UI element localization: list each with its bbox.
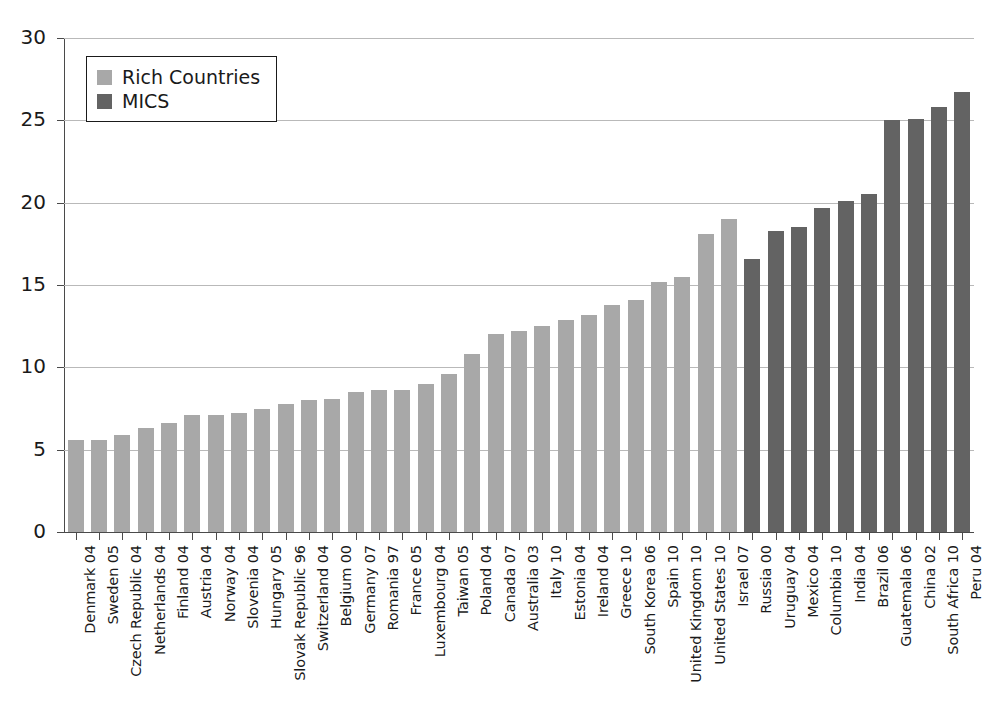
x-axis-label-norway-04: Norway 04: [222, 545, 238, 725]
x-axis-label-taiwan-05: Taiwan 05: [455, 545, 471, 725]
bar-denmark-04: [68, 440, 84, 532]
x-tick-36: [916, 533, 917, 540]
x-tick-35: [892, 533, 893, 540]
x-tick-37: [939, 533, 940, 540]
x-tick-13: [379, 533, 380, 540]
y-axis-label-30: 30: [0, 27, 46, 47]
x-axis-label-peru-04: Peru 04: [968, 545, 984, 725]
bar-guatemala-06: [884, 120, 900, 532]
bar-norway-04: [208, 415, 224, 532]
x-tick-27: [706, 533, 707, 540]
bar-switzerland-04: [301, 400, 317, 532]
bar-south-africa-10: [931, 107, 947, 532]
x-axis-label-poland-04: Poland 04: [478, 545, 494, 725]
gridline-30: [64, 38, 974, 39]
x-tick-4: [169, 533, 170, 540]
bar-south-korea-06: [628, 300, 644, 532]
x-tick-3: [146, 533, 147, 540]
x-axis-label-slovenia-04: Slovenia 04: [245, 545, 261, 725]
x-tick-17: [472, 533, 473, 540]
x-axis-label-south-korea-06: South Korea 06: [642, 545, 658, 725]
x-axis-label-canada-07: Canada 07: [502, 545, 518, 725]
x-axis-label-czech-republic-04: Czech Republic 04: [128, 545, 144, 725]
y-axis-label-0: 0: [0, 521, 46, 541]
y-axis-label-20: 20: [0, 192, 46, 212]
x-axis-label-luxembourg-04: Luxembourg 04: [432, 545, 448, 725]
bar-luxembourg-04: [418, 384, 434, 532]
bar-sweden-05: [91, 440, 107, 532]
x-tick-8: [262, 533, 263, 540]
x-axis-label-china-02: China 02: [922, 545, 938, 725]
x-tick-6: [216, 533, 217, 540]
x-tick-15: [426, 533, 427, 540]
legend-swatch-rich-countries: [97, 70, 112, 85]
bar-mexico-04: [791, 227, 807, 532]
x-tick-16: [449, 533, 450, 540]
x-tick-19: [519, 533, 520, 540]
x-tick-2: [122, 533, 123, 540]
x-axis-label-mexico-04: Mexico 04: [805, 545, 821, 725]
bar-austria-04: [184, 415, 200, 532]
bar-ireland-04: [581, 315, 597, 532]
x-axis-label-italy-10: Italy 10: [548, 545, 564, 725]
x-axis-label-germany-07: Germany 07: [362, 545, 378, 725]
bar-brazil-06: [861, 194, 877, 532]
bar-france-05: [394, 390, 410, 532]
bar-canada-07: [488, 334, 504, 532]
bar-hungary-05: [254, 409, 270, 533]
y-axis-label-25: 25: [0, 109, 46, 129]
x-tick-38: [962, 533, 963, 540]
x-axis-label-uruguay-04: Uruguay 04: [782, 545, 798, 725]
legend-item-rich-countries: Rich Countries: [97, 65, 260, 89]
x-tick-28: [729, 533, 730, 540]
x-axis-label-france-05: France 05: [408, 545, 424, 725]
x-tick-21: [566, 533, 567, 540]
x-tick-29: [752, 533, 753, 540]
x-tick-32: [822, 533, 823, 540]
bar-netherlands-04: [138, 428, 154, 532]
y-axis-label-5: 5: [0, 439, 46, 459]
x-axis-label-finland-04: Finland 04: [175, 545, 191, 725]
x-axis-label-estonia-04: Estonia 04: [572, 545, 588, 725]
x-axis-label-united-states-10: United States 10: [712, 545, 728, 725]
x-axis-label-brazil-06: Brazil 06: [875, 545, 891, 725]
bar-slovenia-04: [231, 413, 247, 532]
x-tick-18: [496, 533, 497, 540]
x-axis-label-belgium-00: Belgium 00: [338, 545, 354, 725]
x-axis-label-ireland-04: Ireland 04: [595, 545, 611, 725]
bar-poland-04: [464, 354, 480, 532]
x-tick-9: [286, 533, 287, 540]
bar-russia-00: [744, 259, 760, 532]
x-tick-11: [332, 533, 333, 540]
legend-swatch-mics: [97, 94, 112, 109]
bar-peru-04: [954, 92, 970, 532]
x-axis-label-australia-03: Australia 03: [525, 545, 541, 725]
x-tick-20: [542, 533, 543, 540]
x-axis-label-netherlands-04: Netherlands 04: [152, 545, 168, 725]
bar-australia-03: [511, 331, 527, 532]
x-axis-label-romania-97: Romania 97: [385, 545, 401, 725]
x-axis-label-switzerland-04: Switzerland 04: [315, 545, 331, 725]
x-axis-label-slovak-republic-96: Slovak Republic 96: [292, 545, 308, 725]
bar-finland-04: [161, 423, 177, 532]
x-tick-31: [799, 533, 800, 540]
x-tick-1: [99, 533, 100, 540]
x-axis-label-hungary-05: Hungary 05: [268, 545, 284, 725]
bar-greece-10: [604, 305, 620, 532]
x-axis-label-austria-04: Austria 04: [198, 545, 214, 725]
bar-india-04: [838, 201, 854, 532]
bar-china-02: [908, 119, 924, 532]
bar-taiwan-05: [441, 374, 457, 532]
bar-czech-republic-04: [114, 435, 130, 532]
legend-item-mics: MICS: [97, 89, 260, 113]
x-tick-5: [192, 533, 193, 540]
x-axis-label-greece-10: Greece 10: [618, 545, 634, 725]
x-axis-label-sweden-05: Sweden 05: [105, 545, 121, 725]
bar-united-kingdom-10: [674, 277, 690, 532]
x-axis-label-denmark-04: Denmark 04: [82, 545, 98, 725]
bar-united-states-10: [698, 234, 714, 532]
x-tick-30: [776, 533, 777, 540]
x-axis-label-columbia-10: Columbia 10: [828, 545, 844, 725]
x-tick-14: [402, 533, 403, 540]
